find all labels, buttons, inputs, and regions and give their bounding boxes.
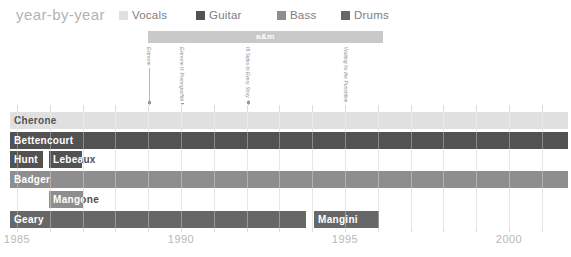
album-title: Waiting for the Punchline bbox=[343, 47, 349, 105]
timeline-row-bettencourt: Bettencourt bbox=[0, 132, 571, 149]
axis-tick-1990: 1990 bbox=[168, 233, 194, 245]
timeline-row-mangone: Mangone Mangone bbox=[0, 191, 571, 208]
member-label: Mangone bbox=[49, 191, 83, 208]
legend-label-drums: Drums bbox=[354, 9, 389, 21]
legend-item-bass: Bass bbox=[277, 9, 316, 21]
member-label: Lebeaux bbox=[49, 151, 82, 168]
guitar-swatch-icon bbox=[196, 11, 205, 20]
record-label-bar: a&m bbox=[148, 31, 383, 43]
gridline bbox=[345, 105, 346, 232]
album-title: Extreme II: Pornograffitti bbox=[179, 47, 185, 103]
axis-tick-1995: 1995 bbox=[332, 233, 358, 245]
vocals-swatch-icon bbox=[119, 11, 128, 20]
legend-item-drums: Drums bbox=[341, 9, 389, 21]
member-bar-mangini: Mangini bbox=[314, 211, 379, 228]
album-dot bbox=[247, 101, 250, 104]
gridline bbox=[509, 105, 510, 232]
album-title: Extreme bbox=[146, 47, 152, 68]
band-timeline-chart: year-by-year Vocals Guitar Bass Drums a&… bbox=[0, 0, 571, 257]
member-label: Mangini bbox=[314, 211, 379, 228]
member-label: Hunt bbox=[10, 151, 43, 168]
legend-label-guitar: Guitar bbox=[209, 9, 242, 21]
gridline bbox=[148, 105, 149, 232]
gridline bbox=[411, 105, 412, 232]
gridline bbox=[312, 105, 313, 232]
album-title: III Sides to Every Story bbox=[245, 47, 251, 100]
timeline-row-hunt-lebeaux: Lebeaux Hunt Lebeaux bbox=[0, 151, 571, 168]
member-label: Cherone bbox=[10, 112, 568, 129]
bass-swatch-icon bbox=[277, 11, 286, 20]
gridline bbox=[542, 105, 543, 232]
member-bar-geary: Geary bbox=[10, 211, 306, 228]
member-bar-cherone: Cherone bbox=[10, 112, 568, 129]
legend-label-bass: Bass bbox=[290, 9, 316, 21]
legend-item-guitar: Guitar bbox=[196, 9, 242, 21]
gridline bbox=[17, 105, 18, 232]
axis-tick-2000: 2000 bbox=[496, 233, 522, 245]
record-label-text: a&m bbox=[148, 31, 383, 43]
gridline bbox=[247, 105, 248, 232]
drums-swatch-icon bbox=[341, 11, 350, 20]
gridline bbox=[214, 105, 215, 232]
member-label: Bettencourt bbox=[10, 132, 568, 149]
member-label: Geary bbox=[10, 211, 306, 228]
gridline bbox=[378, 105, 379, 232]
gridline bbox=[181, 105, 182, 232]
legend-item-vocals: Vocals bbox=[119, 9, 167, 21]
chart-title: year-by-year bbox=[16, 6, 105, 23]
axis-tick-1985: 1985 bbox=[4, 233, 30, 245]
gridline bbox=[279, 105, 280, 232]
gridline bbox=[50, 105, 51, 232]
gridline bbox=[115, 105, 116, 232]
album-dot bbox=[148, 101, 151, 104]
timeline-row-geary-mangini: Geary Mangini bbox=[0, 211, 571, 228]
member-bar-mangone: Mangone bbox=[49, 191, 83, 208]
member-bar-badger: Badger bbox=[10, 171, 568, 188]
member-bar-hunt: Hunt bbox=[10, 151, 43, 168]
timeline-row-badger: Badger bbox=[0, 171, 571, 188]
gridline bbox=[476, 105, 477, 232]
gridline bbox=[443, 105, 444, 232]
gridline bbox=[83, 105, 84, 232]
timeline-row-cherone: Cherone bbox=[0, 112, 571, 129]
legend-label-vocals: Vocals bbox=[132, 9, 167, 21]
member-label: Badger bbox=[10, 171, 568, 188]
member-bar-lebeaux: Lebeaux bbox=[49, 151, 82, 168]
member-bar-bettencourt: Bettencourt bbox=[10, 132, 568, 149]
